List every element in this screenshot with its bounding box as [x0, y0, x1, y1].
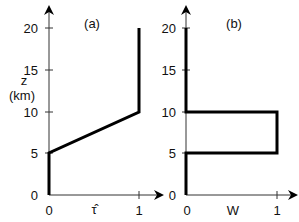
panel-b-xlabel: W [227, 203, 240, 218]
panel-b-label: (b) [226, 16, 242, 31]
panel-b: 20 15 10 5 0 0 1 W (b) [162, 7, 296, 218]
panel-b-ytick-5: 5 [169, 146, 176, 161]
panel-b-w-curve [186, 28, 277, 195]
panel-a-xtick-1: 1 [135, 203, 142, 218]
panel-a-ylabel: z [21, 73, 28, 88]
panel-a-ytick-20: 20 [24, 21, 38, 36]
panel-a-ytick-0: 0 [31, 188, 38, 203]
panel-b-xtick-1: 1 [273, 203, 280, 218]
panel-b-ytick-10: 10 [162, 105, 176, 120]
panel-a-xlabel: τ̂ [91, 202, 99, 217]
panel-a-label: (a) [84, 16, 100, 31]
panel-b-ytick-15: 15 [162, 63, 176, 78]
panel-a-ytick-5: 5 [31, 146, 38, 161]
panel-b-ytick-20: 20 [162, 21, 176, 36]
panel-b-ytick-0: 0 [169, 188, 176, 203]
panel-a-ytick-10: 10 [24, 105, 38, 120]
panel-a-xtick-0: 0 [45, 203, 52, 218]
panel-a: 20 15 10 5 0 0 1 z (km) τ̂ (a) [9, 7, 162, 218]
panel-a-tau-curve [49, 28, 139, 195]
panel-a-yunit: (km) [9, 88, 35, 103]
figure: 20 15 10 5 0 0 1 z (km) τ̂ (a) 20 15 10 … [0, 0, 299, 222]
panel-b-xtick-0: 0 [183, 203, 190, 218]
